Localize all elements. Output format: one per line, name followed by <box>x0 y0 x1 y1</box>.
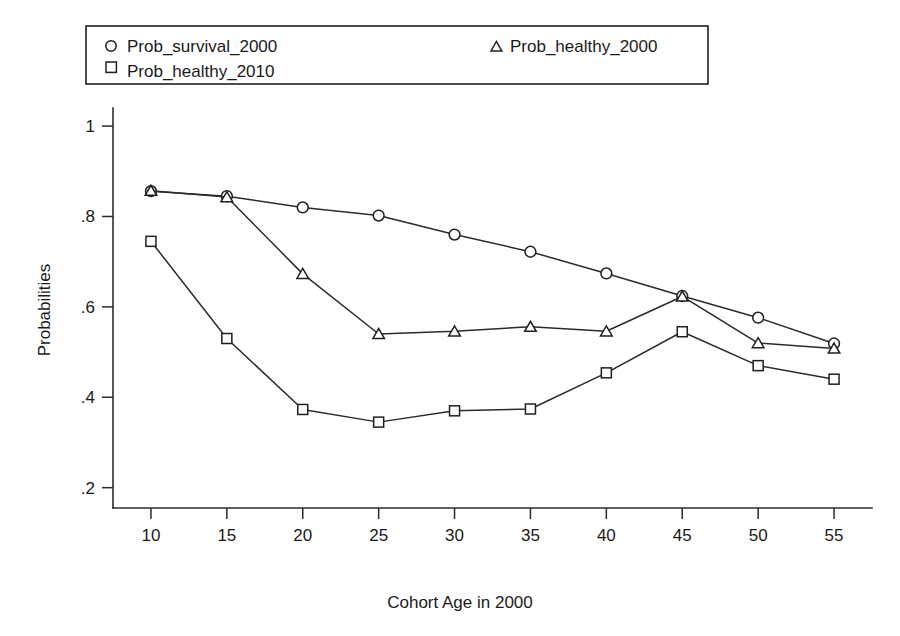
data-point-square <box>298 404 308 414</box>
x-tick-label: 55 <box>825 526 844 545</box>
chart-legend: Prob_survival_2000 Prob_healthy_2010 Pro… <box>86 26 708 84</box>
data-point-square <box>525 404 535 414</box>
x-tick-label: 35 <box>521 526 540 545</box>
x-tick-label: 50 <box>749 526 768 545</box>
chart-axes <box>113 108 872 508</box>
data-point-square <box>601 368 611 378</box>
y-tick-label: .6 <box>81 298 95 317</box>
chart-figure: Prob_survival_2000 Prob_healthy_2010 Pro… <box>0 0 900 636</box>
x-tick-label: 25 <box>369 526 388 545</box>
legend-entry-prob-survival-2000[interactable]: Prob_survival_2000 <box>106 37 277 56</box>
data-point-circle <box>373 210 384 221</box>
data-point-square <box>374 417 384 427</box>
data-point-circle <box>297 202 308 213</box>
x-axis-ticks: 10152025303540455055 <box>141 508 843 545</box>
x-tick-label: 10 <box>141 526 160 545</box>
x-tick-label: 40 <box>597 526 616 545</box>
line-chart-canvas: Prob_survival_2000 Prob_healthy_2010 Pro… <box>0 0 900 636</box>
x-tick-label: 15 <box>217 526 236 545</box>
data-point-square <box>222 334 232 344</box>
x-tick-label: 20 <box>293 526 312 545</box>
y-tick-label: 1 <box>86 117 95 136</box>
series-prob-survival-2000 <box>146 186 840 349</box>
data-point-square <box>753 361 763 371</box>
series-prob-healthy-2010 <box>146 236 839 427</box>
legend-label-1: Prob_healthy_2000 <box>510 37 657 56</box>
data-point-circle <box>601 268 612 279</box>
legend-label-2: Prob_healthy_2010 <box>127 62 274 81</box>
y-axis-ticks: .2.4.6.81 <box>81 117 113 498</box>
data-point-circle <box>525 246 536 257</box>
x-tick-label: 45 <box>673 526 692 545</box>
series-prob-healthy-2000 <box>145 185 840 353</box>
legend-label-0: Prob_survival_2000 <box>127 37 277 56</box>
y-tick-label: .2 <box>81 479 95 498</box>
y-tick-label: .4 <box>81 388 95 407</box>
legend-entry-prob-healthy-2000[interactable]: Prob_healthy_2000 <box>491 37 657 56</box>
circle-icon <box>106 41 116 51</box>
series-line <box>151 241 834 422</box>
y-axis-title: Probabilities <box>35 264 54 357</box>
legend-entry-prob-healthy-2010[interactable]: Prob_healthy_2010 <box>106 62 274 81</box>
data-point-circle <box>753 312 764 323</box>
series-line <box>151 191 834 349</box>
data-point-circle <box>449 229 460 240</box>
square-icon <box>106 62 116 72</box>
data-point-square <box>450 406 460 416</box>
data-point-square <box>146 236 156 246</box>
y-tick-label: .8 <box>81 207 95 226</box>
x-axis-title: Cohort Age in 2000 <box>387 593 533 612</box>
data-point-square <box>829 374 839 384</box>
x-tick-label: 30 <box>445 526 464 545</box>
series-line <box>151 191 834 343</box>
chart-series-layer <box>145 185 840 427</box>
data-point-square <box>677 327 687 337</box>
